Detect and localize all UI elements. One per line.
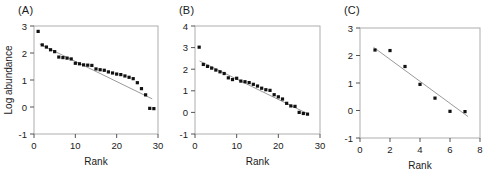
svg-text:Rank: Rank [84,156,108,167]
svg-text:4: 4 [417,144,422,155]
svg-text:2: 2 [348,50,353,61]
svg-text:1: 1 [348,78,353,89]
svg-text:8: 8 [477,144,482,155]
svg-text:30: 30 [153,140,164,151]
panel-b-plot: 0102030-101234Rank [165,0,332,180]
panel-b: (B) 0102030-101234Rank [165,0,332,180]
svg-text:2: 2 [183,64,188,75]
svg-text:1: 1 [183,85,188,96]
svg-text:0: 0 [348,105,353,116]
svg-text:0: 0 [31,140,36,151]
svg-text:0: 0 [22,102,27,113]
svg-text:20: 20 [273,140,284,151]
svg-text:1: 1 [22,75,27,86]
svg-text:4: 4 [183,21,188,32]
svg-text:3: 3 [22,21,27,32]
svg-text:-1: -1 [19,129,27,140]
svg-text:3: 3 [348,23,353,34]
panel-a-plot: 0102030-10123RankLog abundance [0,0,165,180]
svg-text:20: 20 [111,140,122,151]
panel-c: (C) 02468-10123Rank [332,0,497,180]
svg-text:30: 30 [315,140,326,151]
svg-text:3: 3 [183,42,188,53]
svg-text:10: 10 [70,140,81,151]
figure-panels: (A) 0102030-10123RankLog abundance (B) 0… [0,0,497,180]
panel-a: (A) 0102030-10123RankLog abundance [0,0,165,180]
svg-text:-1: -1 [345,133,353,144]
svg-text:0: 0 [357,144,362,155]
svg-text:0: 0 [183,107,188,118]
svg-text:Rank: Rank [408,160,432,171]
svg-text:Rank: Rank [246,156,270,167]
svg-text:Log abundance: Log abundance [3,45,14,114]
svg-text:0: 0 [192,140,197,151]
svg-text:2: 2 [387,144,392,155]
svg-text:2: 2 [22,48,27,59]
svg-text:6: 6 [447,144,452,155]
panel-c-plot: 02468-10123Rank [332,0,497,180]
svg-text:10: 10 [231,140,242,151]
svg-text:-1: -1 [180,129,188,140]
